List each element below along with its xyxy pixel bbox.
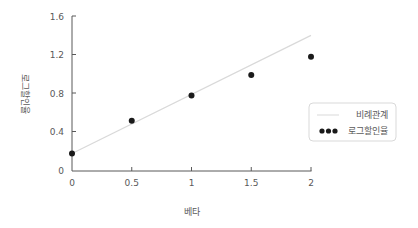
x-tick-labels: 0 0.5 1 1.5 2 [69, 178, 314, 188]
legend-label: 로그할인율 [348, 126, 388, 136]
legend: 비례관계 로그할인율 [309, 103, 396, 141]
y-tick-label: 0.8 [50, 89, 65, 99]
data-point [189, 92, 195, 98]
x-tick-label: 1.5 [244, 178, 258, 188]
x-axis-title: 베타 [184, 207, 201, 217]
data-point [308, 54, 314, 60]
legend-label: 비례관계 [356, 109, 388, 120]
y-axis [72, 16, 76, 171]
x-tick-label: 1 [189, 178, 195, 188]
x-tick-label: 0 [69, 178, 75, 188]
y-axis-title: 로그할인율 [20, 74, 30, 114]
x-tick-label: 0.5 [125, 178, 139, 188]
x-axis [72, 167, 312, 171]
x-tick-label: 2 [308, 178, 314, 188]
legend-dot-swatch [319, 128, 337, 133]
log-discount-scatter-series [69, 54, 314, 157]
y-tick-label: 1.6 [50, 12, 65, 22]
data-point [69, 151, 75, 157]
data-point [248, 72, 254, 78]
y-tick-labels: 0 0.4 0.8 1.2 1.6 [50, 12, 65, 176]
y-tick-label: 1.2 [50, 50, 64, 60]
data-point [129, 118, 135, 124]
y-tick-label: 0.4 [50, 127, 65, 137]
chart: 0 0.4 0.8 1.2 1.6 0 0.5 1 1.5 2 베타 로그할인율… [0, 0, 418, 228]
y-tick-label: 0 [58, 166, 64, 176]
